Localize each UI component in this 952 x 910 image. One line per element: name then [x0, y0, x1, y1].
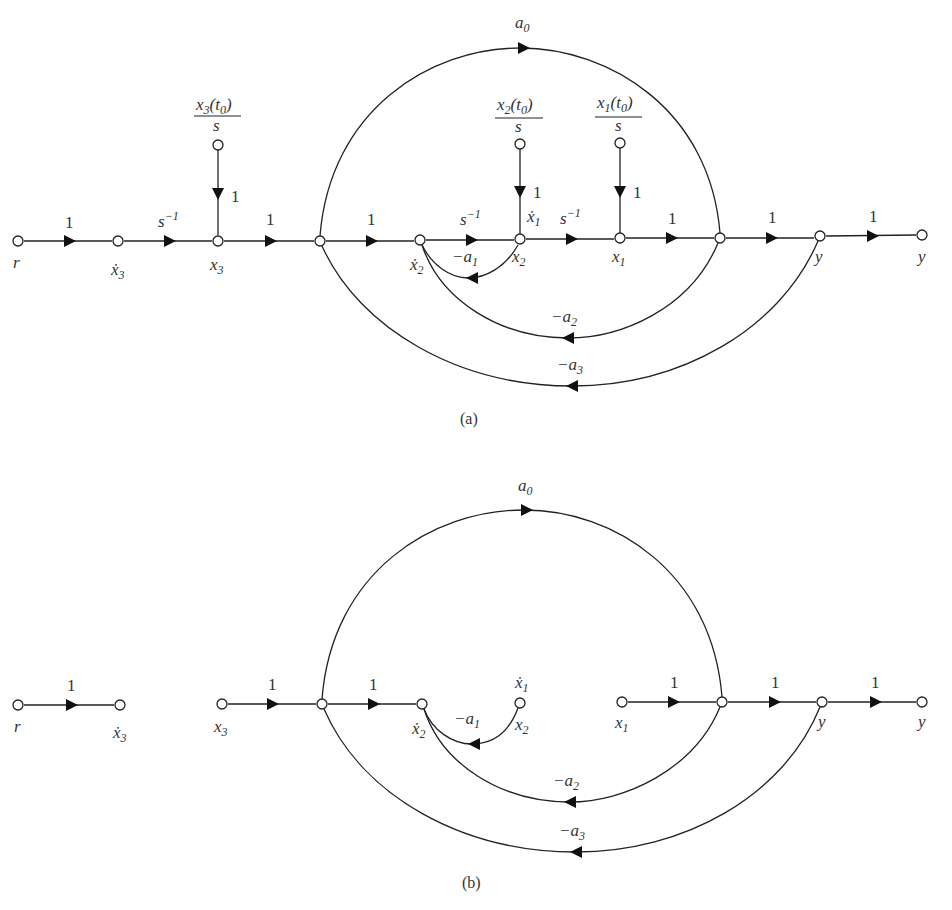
node-label: ẋ3 — [112, 723, 127, 745]
signal-flow-graph-figure: r ẋ3 x3 ẋ2 x2 ẋ1 x1 y y x3(t0) s 1 x2(t0… — [0, 0, 952, 910]
node-label: x3 — [213, 717, 228, 739]
svg-text:1: 1 — [533, 183, 542, 202]
node-label: x3 — [209, 255, 224, 277]
arrow-icon — [66, 699, 78, 711]
gain-label: 1 — [668, 209, 677, 228]
gain-label: −a2 — [553, 771, 579, 793]
gain-label: 1 — [367, 210, 376, 229]
node-r — [13, 236, 23, 246]
panel-caption-b: (b) — [462, 874, 481, 892]
gain-label: −a3 — [559, 821, 585, 843]
panel-a: r ẋ3 x3 ẋ2 x2 ẋ1 x1 y y x3(t0) s 1 x2(t0… — [13, 13, 927, 428]
gain-label: −a1 — [452, 247, 478, 269]
arrow-icon — [466, 234, 478, 246]
node-x1 — [617, 697, 627, 707]
arrow-icon — [614, 186, 626, 198]
svg-text:s: s — [213, 116, 220, 135]
svg-text:1: 1 — [633, 183, 642, 202]
node-label: ẋ3 — [110, 260, 125, 282]
arrow-icon — [518, 42, 530, 54]
node-label: y — [916, 712, 926, 731]
node-label: x2 — [514, 715, 529, 737]
node-x3 — [213, 236, 223, 246]
arrow-icon — [668, 696, 680, 708]
arrow-icon — [769, 696, 781, 708]
arrow-icon — [265, 235, 277, 247]
node-label: x1 — [611, 247, 626, 269]
arrow-icon — [867, 230, 879, 242]
arrow-icon — [566, 380, 578, 392]
gain-label: −a2 — [551, 307, 577, 329]
arrow-icon — [566, 233, 578, 245]
node-x1 — [615, 233, 625, 243]
node-x2-initial — [515, 139, 525, 149]
node-y — [815, 231, 825, 241]
arrow-icon — [164, 235, 176, 247]
node-x3 — [217, 699, 227, 709]
gain-label: −a1 — [454, 709, 480, 731]
gain-label: s−1 — [460, 207, 481, 229]
forward-path-a — [24, 230, 916, 247]
arrow-icon — [570, 846, 582, 858]
panel-b: r ẋ3 x3 ẋ2 x2 ẋ1 x1 y y 1 1 1 1 1 1 a0 −… — [13, 476, 927, 892]
gain-label: 1 — [771, 673, 780, 692]
svg-text:x2(t0): x2(t0) — [496, 95, 533, 117]
node-label: y — [813, 247, 823, 266]
node-sum-2 — [715, 233, 725, 243]
node-x3-initial — [213, 140, 223, 150]
node-x3dot — [113, 236, 123, 246]
node-label: r — [13, 253, 20, 272]
gain-label: s−1 — [158, 209, 179, 231]
node-r — [13, 700, 23, 710]
arrow-icon — [766, 232, 778, 244]
arrow-icon — [870, 696, 882, 708]
gain-label: 1 — [268, 675, 277, 694]
arrow-icon — [562, 332, 574, 344]
node-label: ẋ1 — [526, 207, 541, 229]
arrow-icon — [514, 186, 526, 198]
node-label: y — [816, 712, 826, 731]
node-y-output — [917, 230, 927, 240]
node-label: ẋ2 — [411, 719, 426, 741]
arrow-icon — [468, 738, 480, 750]
node-x1-initial — [615, 138, 625, 148]
node-y — [817, 697, 827, 707]
arrow-icon — [366, 235, 378, 247]
feedforward-a0-b — [322, 504, 722, 699]
node-y-output — [917, 697, 927, 707]
node-label: ẋ2 — [409, 255, 424, 277]
node-x2 — [515, 234, 525, 244]
arrow-icon — [212, 188, 224, 200]
arrow-icon — [666, 232, 678, 244]
arrow-icon — [521, 504, 533, 516]
gain-label: 1 — [369, 675, 378, 694]
svg-text:1: 1 — [231, 187, 240, 206]
gain-label: −a3 — [557, 355, 583, 377]
gain-label: 1 — [266, 210, 275, 229]
labels-b: r ẋ3 x3 ẋ2 x2 ẋ1 x1 y y 1 1 1 1 1 1 a0 −… — [14, 476, 926, 892]
panel-caption-a: (a) — [460, 410, 478, 428]
svg-text:x3(t0): x3(t0) — [195, 95, 232, 117]
node-label: r — [14, 717, 21, 736]
node-x2dot — [417, 699, 427, 709]
node-sum-1 — [317, 699, 327, 709]
gain-label: a0 — [518, 476, 533, 498]
gain-label: 1 — [670, 673, 679, 692]
gain-label: 1 — [67, 676, 76, 695]
svg-text:s: s — [615, 116, 622, 135]
arrow-icon — [267, 698, 279, 710]
node-label: y — [916, 247, 926, 266]
node-label: x1 — [614, 713, 629, 735]
svg-text:s: s — [515, 117, 522, 136]
gain-label: s−1 — [560, 206, 581, 228]
node-label: ẋ1 — [514, 673, 529, 695]
gain-label: a0 — [515, 13, 530, 35]
arrow-icon — [466, 272, 478, 284]
gain-label: 1 — [768, 208, 777, 227]
node-x3dot — [115, 700, 125, 710]
gain-label: 1 — [869, 207, 878, 226]
svg-text:x1(t0): x1(t0) — [596, 93, 633, 115]
arrow-icon — [64, 235, 76, 247]
node-label: x2 — [511, 247, 526, 269]
labels-a: r ẋ3 x3 ẋ2 x2 ẋ1 x1 y y x3(t0) s 1 x2(t0… — [13, 13, 926, 428]
